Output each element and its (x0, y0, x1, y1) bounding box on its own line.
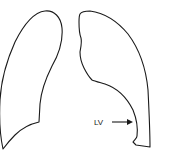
lung-diagram: LV (0, 0, 187, 150)
right-lung-outline (79, 11, 150, 147)
left-lung-outline (0, 11, 62, 149)
lv-label: LV (94, 118, 104, 127)
lv-arrow-icon (112, 119, 133, 125)
